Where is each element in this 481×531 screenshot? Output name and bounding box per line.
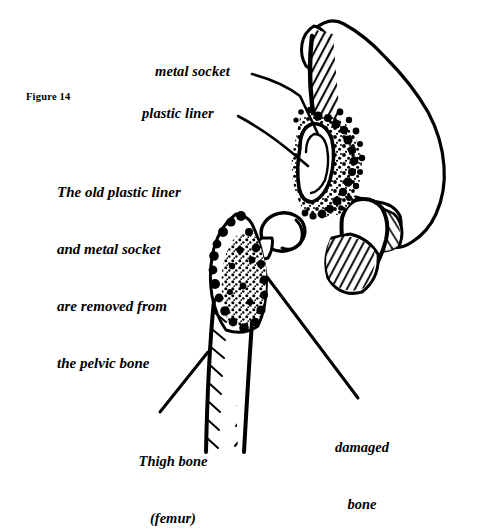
figure-caption: The old plastic liner and metal socket a… — [57, 145, 181, 411]
callout-plastic-liner: plastic liner — [142, 105, 214, 122]
caption-line-3: are removed from — [57, 297, 181, 316]
damaged-bone-line-2: bone — [308, 495, 416, 514]
leader-damaged-bone — [267, 277, 358, 398]
caption-line-4: the pelvic bone — [57, 354, 181, 373]
caption-line-1: The old plastic liner — [57, 183, 181, 202]
callout-damaged-bone: damaged bone — [308, 400, 416, 531]
damaged-bone-line-1: damaged — [308, 438, 416, 457]
thigh-bone-line-2: (femur) — [108, 509, 238, 528]
callout-metal-socket: metal socket — [155, 63, 230, 80]
pelvic-bone — [288, 21, 444, 298]
femoral-shaft-medial-border — [244, 322, 252, 452]
figure-number: Figure 14 — [26, 91, 70, 102]
callout-thigh-bone: Thigh bone (femur) — [108, 414, 238, 531]
caption-line-2: and metal socket — [57, 240, 181, 259]
thigh-bone-line-1: Thigh bone — [108, 452, 238, 471]
